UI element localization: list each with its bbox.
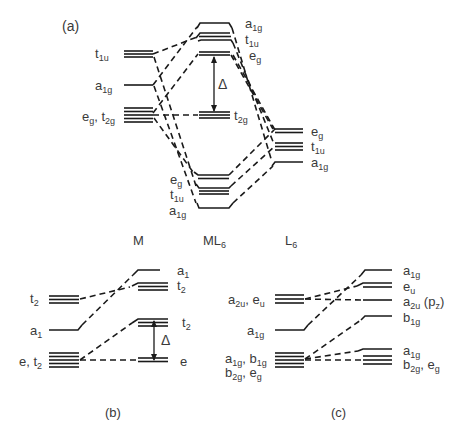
sq-left-a2u-eu-level xyxy=(275,295,304,303)
complex-t1u-antibonding xyxy=(196,33,233,43)
complex-a1g-antibonding xyxy=(197,23,232,28)
tet-left-t2-label: t2 xyxy=(30,292,39,308)
ligand-a1g-label: a1g xyxy=(311,156,328,172)
complex-a1g-lower-label: a1g xyxy=(169,204,186,220)
complex-t2g-label: t2g xyxy=(234,109,248,125)
complex-t1u-upper-label: t1u xyxy=(245,33,259,49)
delta-arrow xyxy=(211,56,217,112)
sq-right-b2g-eg-level xyxy=(363,356,392,364)
panel-b-label: (b) xyxy=(105,406,121,419)
tet-right-a1-level xyxy=(133,270,160,275)
tet-right-t2-upper-label: t2 xyxy=(177,279,186,295)
complex-eg-antibonding xyxy=(199,52,230,55)
complex-eg-upper-label: eg xyxy=(249,49,261,65)
delta-arrow-b xyxy=(151,320,157,361)
delta-label-b: Δ xyxy=(161,333,170,347)
tet-right-t2-lower-level xyxy=(132,319,168,326)
ligand-t1u-level xyxy=(275,143,303,150)
complex-t1u-bonding xyxy=(196,184,231,194)
correlation-lines-panel-c xyxy=(305,275,362,360)
ligand-t1u-label: t1u xyxy=(311,140,325,156)
sq-left-mixed-level xyxy=(275,353,304,367)
sq-right-b1g-label: b1g xyxy=(403,311,420,327)
sq-right-a2u-pz-label: a2u (pz) xyxy=(403,295,444,311)
tet-left-t2-level xyxy=(49,296,79,303)
complex-t2g-nonbonding xyxy=(199,112,230,118)
metal-t1u-level xyxy=(124,51,153,57)
column-label-ligands: L6 xyxy=(285,234,297,250)
column-label-metal: M xyxy=(133,234,144,247)
panel-c-diagram xyxy=(275,270,392,367)
complex-t1u-lower-label: t1u xyxy=(170,188,184,204)
metal-eg-t2g-label: eg, t2g xyxy=(82,110,115,126)
sq-left-b2g-eg-label: b2g, eg xyxy=(225,366,262,382)
panel-c-label: (c) xyxy=(331,406,346,419)
metal-t1u-label: t1u xyxy=(95,47,109,63)
sq-right-b1g-level xyxy=(361,316,392,320)
sq-left-a2u-eu-label: a2u, eu xyxy=(228,293,265,309)
sq-right-eu-level xyxy=(357,283,392,287)
tet-left-a1-label: a1 xyxy=(30,324,42,340)
sq-right-a1g-top-label: a1g xyxy=(403,264,420,280)
sq-left-a1g-level xyxy=(275,325,308,330)
panel-a-diagram xyxy=(124,23,303,208)
metal-a1g-label: a1g xyxy=(95,79,112,95)
metal-eg-t2g-level xyxy=(124,108,153,122)
sq-left-a1g-label: a1g xyxy=(247,324,264,340)
complex-eg-bonding xyxy=(194,172,229,179)
tet-left-a1-level xyxy=(49,325,82,330)
sq-right-a1g-low-level xyxy=(358,349,392,351)
complex-a1g-upper-label: a1g xyxy=(245,17,262,33)
correlation-lines-panel-b xyxy=(80,275,136,360)
panel-b-diagram xyxy=(49,270,168,367)
tet-right-t2-upper-level xyxy=(132,283,168,290)
tet-right-t2-lower-label: t2 xyxy=(182,316,191,332)
sq-right-b2g-eg-label: b2g, eg xyxy=(403,358,440,374)
tet-left-e-t2-label: e, t2 xyxy=(19,355,42,371)
sq-right-a1g-top-level xyxy=(361,270,392,275)
ligand-a1g-level xyxy=(272,162,303,166)
panel-a-label: (a) xyxy=(62,19,79,33)
tet-left-e-t2-level xyxy=(49,353,79,367)
column-label-complex: ML6 xyxy=(203,234,226,250)
complex-a1g-bonding xyxy=(197,203,233,208)
tet-right-e-label: e xyxy=(180,355,187,368)
delta-label: Δ xyxy=(218,77,227,91)
ligand-eg-level xyxy=(275,129,303,133)
